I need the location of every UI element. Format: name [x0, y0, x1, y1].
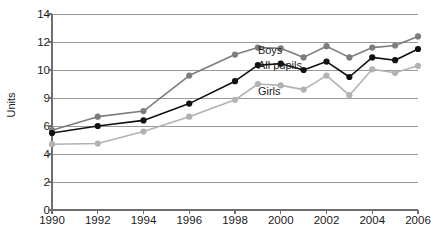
data-point [140, 129, 146, 135]
data-point [369, 54, 375, 60]
data-point [415, 63, 421, 69]
data-point [232, 97, 238, 103]
series-girls [49, 63, 421, 148]
data-point [392, 57, 398, 63]
data-point [140, 108, 146, 114]
data-point [140, 117, 146, 123]
data-point [95, 123, 101, 129]
series-label-all-pupils: All pupils [258, 59, 303, 71]
data-point [323, 73, 329, 79]
series-line [52, 66, 418, 144]
data-point [346, 54, 352, 60]
series-line [52, 49, 418, 133]
data-point [369, 45, 375, 51]
data-point [392, 42, 398, 48]
data-point [415, 33, 421, 39]
data-point [346, 74, 352, 80]
data-point [369, 66, 375, 72]
data-point [346, 92, 352, 98]
data-point [95, 140, 101, 146]
data-point [186, 114, 192, 120]
data-point [95, 114, 101, 120]
data-point [232, 78, 238, 84]
series-label-girls: Girls [258, 85, 281, 97]
data-point [323, 43, 329, 49]
data-point [49, 141, 55, 147]
data-point [323, 59, 329, 65]
data-point [186, 101, 192, 107]
series-label-boys: Boys [258, 44, 283, 56]
data-point [301, 87, 307, 93]
data-point [415, 46, 421, 52]
data-point [232, 52, 238, 58]
data-point [186, 73, 192, 79]
series-all-pupils [49, 46, 421, 136]
data-point [49, 130, 55, 136]
data-point [392, 70, 398, 76]
